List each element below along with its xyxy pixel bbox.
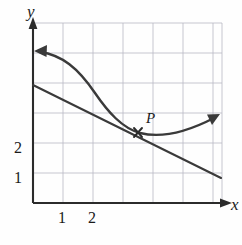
y-tick-label-1: 1 (14, 170, 22, 186)
plot-canvas (0, 0, 242, 245)
function-curve (40, 52, 214, 135)
graph-figure: y x 1 2 1 2 P (0, 0, 242, 245)
x-tick-label-1: 1 (58, 210, 66, 226)
point-label-p: P (146, 111, 155, 126)
y-tick-label-2: 2 (14, 140, 22, 156)
tangent-line (33, 85, 221, 178)
curve-left-arrowhead (34, 45, 47, 57)
grid-lines (33, 23, 222, 203)
x-tick-label-2: 2 (88, 210, 96, 226)
x-axis-label: x (231, 196, 239, 213)
axes (33, 26, 225, 203)
y-axis-label: y (27, 3, 35, 20)
